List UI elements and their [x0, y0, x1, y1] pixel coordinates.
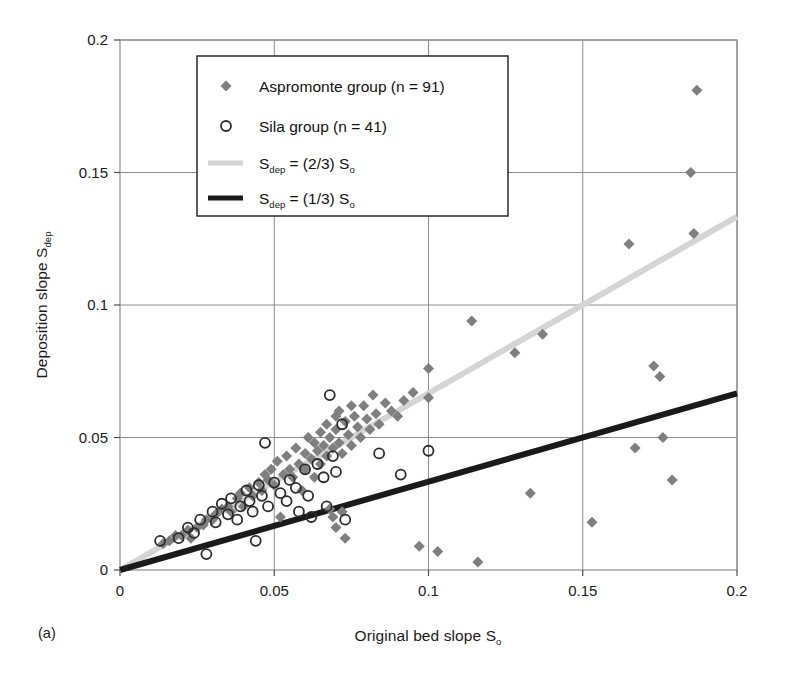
data-point-circle	[201, 549, 211, 559]
data-point-diamond	[691, 85, 702, 96]
data-point-circle	[303, 491, 313, 501]
data-point-circle	[260, 438, 270, 448]
data-point-diamond	[358, 400, 369, 411]
data-point-circle	[319, 472, 329, 482]
data-point-circle	[331, 467, 341, 477]
data-point-diamond	[315, 427, 326, 438]
y-tick-label: 0.15	[79, 164, 108, 181]
data-point-circle	[282, 496, 292, 506]
x-tick-label: 0.05	[260, 582, 289, 599]
data-point-circle	[325, 390, 335, 400]
data-point-diamond	[340, 416, 351, 427]
data-point-circle	[396, 470, 406, 480]
x-tick-label: 0.2	[727, 582, 748, 599]
data-point-diamond	[587, 517, 598, 528]
data-point-diamond	[371, 408, 382, 419]
y-tick-label: 0.1	[87, 296, 108, 313]
data-point-diamond	[380, 398, 391, 409]
data-point-circle	[294, 507, 304, 517]
legend-label: Sila group (n = 41)	[259, 118, 387, 135]
legend-label: Aspromonte group (n = 91)	[259, 78, 445, 95]
data-point-diamond	[466, 315, 477, 326]
data-point-diamond	[648, 360, 659, 371]
data-point-circle	[374, 448, 384, 458]
data-point-circle	[248, 507, 258, 517]
data-point-diamond	[657, 432, 668, 443]
data-point-circle	[263, 501, 273, 511]
data-point-diamond	[281, 451, 292, 462]
data-point-diamond	[349, 411, 360, 422]
data-point-diamond	[630, 443, 641, 454]
data-point-diamond	[340, 533, 351, 544]
data-point-diamond	[472, 557, 483, 568]
data-point-diamond	[272, 456, 283, 467]
figure-root: 00.050.10.150.200.050.10.150.2Aspromonte…	[0, 0, 793, 686]
data-point-diamond	[330, 522, 341, 533]
scatter-plot: 00.050.10.150.200.050.10.150.2Aspromonte…	[0, 0, 793, 686]
data-point-diamond	[290, 443, 301, 454]
data-point-diamond	[685, 167, 696, 178]
data-point-diamond	[321, 419, 332, 430]
data-point-diamond	[667, 474, 678, 485]
data-point-diamond	[361, 413, 372, 424]
data-point-circle	[251, 536, 261, 546]
data-point-diamond	[432, 546, 443, 557]
data-point-diamond	[367, 390, 378, 401]
data-point-diamond	[346, 400, 357, 411]
legend: Aspromonte group (n = 91)Sila group (n =…	[197, 56, 508, 216]
data-point-circle	[232, 515, 242, 525]
x-tick-label: 0.15	[568, 582, 597, 599]
y-tick-label: 0.05	[79, 429, 108, 446]
data-point-diamond	[624, 239, 635, 250]
y-tick-label: 0.2	[87, 31, 108, 48]
data-point-diamond	[408, 387, 419, 398]
y-tick-label: 0	[100, 561, 108, 578]
data-point-diamond	[414, 541, 425, 552]
x-tick-label: 0	[116, 582, 124, 599]
data-point-diamond	[423, 363, 434, 374]
data-point-diamond	[654, 371, 665, 382]
data-point-circle	[340, 515, 350, 525]
data-point-diamond	[525, 488, 536, 499]
x-tick-label: 0.1	[418, 582, 439, 599]
data-point-diamond	[324, 432, 335, 443]
